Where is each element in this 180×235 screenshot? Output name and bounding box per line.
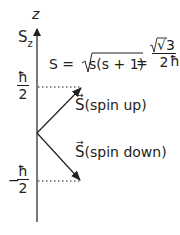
upper-level-denominator: 2 [18, 87, 27, 101]
spin-up-text: (spin up) [85, 97, 147, 113]
upper-level-label: ħ 2 [17, 70, 29, 101]
sz-symbol: S [18, 28, 28, 46]
lower-level-numerator: ħ [17, 164, 29, 178]
spin-up-vector-symbol: →S [75, 98, 85, 113]
upper-level-numerator: ħ [17, 70, 29, 84]
lower-level-denominator: 2 [18, 181, 27, 195]
formula-equals: = [136, 56, 148, 70]
formula-fraction-numerator: √3 [152, 38, 176, 52]
formula-hbar: ħ [170, 54, 180, 68]
vector-arrow-icon: → [76, 91, 84, 100]
spin-down-vector [37, 133, 80, 180]
formula-fraction-denominator: 2 [159, 55, 168, 69]
formula-lhs: S = [49, 57, 74, 71]
lower-level-label: ħ 2 [17, 164, 29, 195]
z-axis-label: z [32, 7, 39, 21]
sz-axis-label: Sz [18, 30, 33, 45]
vector-arrow-icon: → [76, 138, 84, 147]
spin-down-text: (spin down) [85, 144, 167, 160]
sz-subscript: z [28, 38, 33, 49]
spin-down-vector-symbol: →S [75, 145, 85, 160]
spin-down-label: →S(spin down) [75, 145, 167, 160]
spin-up-label: →S(spin up) [75, 98, 147, 113]
